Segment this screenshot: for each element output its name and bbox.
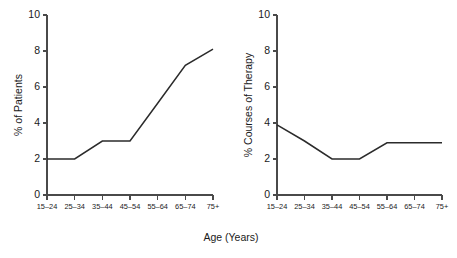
left-y-tick-label: 10	[28, 8, 40, 20]
left-y-tick-label: 6	[34, 80, 40, 92]
left-x-tick-label: 55–64	[147, 202, 168, 211]
left-x-tick-label: 45–54	[120, 202, 141, 211]
left-y-tick-label: 4	[34, 116, 40, 128]
left-x-tick-label: 65–74	[175, 202, 196, 211]
shared-x-axis-title: Age (Years)	[203, 231, 258, 243]
left-y-tick-label: 2	[34, 152, 40, 164]
right-y-axis-title: % Courses of Therapy	[242, 52, 254, 157]
left-y-axis-title: % of Patients	[12, 74, 24, 136]
left-x-tick-label: 15–24	[37, 202, 58, 211]
left-x-tick-label: 25–34	[64, 202, 85, 211]
right-x-tick-label: 65–74	[404, 202, 425, 211]
left-x-tick-label: 35–44	[92, 202, 113, 211]
right-x-tick-label: 35–44	[322, 202, 343, 211]
right-data-line	[277, 125, 442, 159]
right-x-tick-label: 75+	[436, 202, 449, 211]
right-y-tick-label: 0	[264, 188, 270, 200]
right-y-tick-label: 8	[264, 44, 270, 56]
charts-canvas: 024681015–2425–3435–4445–5455–6465–7475+…	[0, 0, 457, 258]
right-y-tick-label: 2	[264, 152, 270, 164]
right-y-tick-label: 6	[264, 80, 270, 92]
left-y-tick-label: 8	[34, 44, 40, 56]
dual-line-chart-figure: 024681015–2425–3435–4445–5455–6465–7475+…	[0, 0, 457, 258]
right-y-tick-label: 4	[264, 116, 270, 128]
right-x-tick-label: 55–64	[377, 202, 398, 211]
right-x-tick-label: 45–54	[349, 202, 370, 211]
right-y-tick-label: 10	[258, 8, 270, 20]
right-x-tick-label: 25–34	[294, 202, 315, 211]
right-x-tick-label: 15–24	[267, 202, 288, 211]
left-data-line	[47, 49, 213, 159]
left-y-tick-label: 0	[34, 188, 40, 200]
left-x-tick-label: 75+	[207, 202, 220, 211]
